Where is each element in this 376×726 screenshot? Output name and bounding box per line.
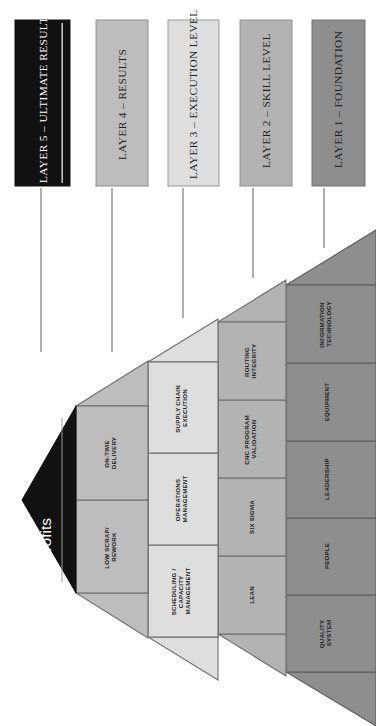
legend-item-layer-4[interactable]: LAYER 4 – RESULTS <box>96 20 148 186</box>
cell-box <box>286 518 376 595</box>
cell-box <box>286 441 376 518</box>
cell-label: PEOPLE <box>323 543 330 569</box>
layer-3-cells: SCHEDULING / CAPACITY MANAGEMENT OPERATI… <box>148 362 218 637</box>
legend-item-layer-5[interactable]: LAYER 5 – ULTIMATE RESULTS <box>15 10 70 186</box>
legend-item-layer-3[interactable]: LAYER 3 – EXECUTION LEVEL <box>168 9 219 186</box>
layer-1-cell-3[interactable]: EQUIPMENT <box>286 363 376 441</box>
cell-label: CNC PROGRAM VALIDATION <box>243 413 257 464</box>
legend-accent-line-layer-5 <box>62 23 63 183</box>
layer-4-cell-1[interactable]: ON-TIME DELIVERY <box>76 406 148 500</box>
legend-label-layer-5: LAYER 5 – ULTIMATE RESULTS <box>37 10 49 183</box>
layer-4-cell-0[interactable]: LOW SCRAP/ REWORK <box>76 500 148 593</box>
legend-item-layer-1[interactable]: LAYER 1 – FOUNDATION <box>312 20 365 186</box>
pyramid-layer-3[interactable]: SCHEDULING / CAPACITY MANAGEMENT OPERATI… <box>148 319 218 680</box>
pyramid-diagram: LAYER 5 – ULTIMATE RESULTS LAYER 4 – RES… <box>0 0 376 726</box>
layer-2-cell-1[interactable]: SIX SIGMA <box>218 478 286 556</box>
layer-2-cell-0[interactable]: LEAN <box>218 556 286 634</box>
pyramid-apex-layer-5[interactable]: Profits <box>22 406 76 593</box>
layer-1-cell-1[interactable]: PEOPLE <box>286 518 376 595</box>
cell-label: QUALITY SYSTEM <box>318 618 332 648</box>
apex-label: Profits <box>37 518 54 562</box>
cell-label: SCHEDULING / CAPACITY MANAGEMENT <box>170 567 192 616</box>
legend-label-layer-2: LAYER 2 – SKILL LEVEL <box>260 33 272 168</box>
cell-label: ON-TIME DELIVERY <box>103 437 117 469</box>
layer-3-cell-1[interactable]: OPERATIONS MANAGEMENT <box>148 453 218 545</box>
cell-label: ROUTING INTEGRITY <box>243 344 257 379</box>
layer-3-cell-2[interactable]: SUPPLY CHAIN EXECUTION <box>148 362 218 453</box>
cell-label: LEADERSHIP <box>323 458 330 500</box>
layer-3-cell-0[interactable]: SCHEDULING / CAPACITY MANAGEMENT <box>148 545 218 637</box>
legend-label-layer-3: LAYER 3 – EXECUTION LEVEL <box>187 9 199 179</box>
cell-label: SIX SIGMA <box>248 500 255 534</box>
layer-4-cells: LOW SCRAP/ REWORK ON-TIME DELIVERY <box>76 406 148 593</box>
legend: LAYER 5 – ULTIMATE RESULTS LAYER 4 – RES… <box>15 9 365 186</box>
legend-label-layer-4: LAYER 4 – RESULTS <box>116 49 128 160</box>
cell-box <box>286 363 376 441</box>
layer-2-cells: LEAN SIX SIGMA CNC PROGRAM VALIDATION <box>218 322 286 634</box>
diagram-canvas: LAYER 5 – ULTIMATE RESULTS LAYER 4 – RES… <box>0 0 376 726</box>
layer-2-cell-3[interactable]: ROUTING INTEGRITY <box>218 322 286 400</box>
apex-triangle <box>22 406 76 593</box>
cell-label: INFORMATION TECHNOLOGY <box>318 300 332 347</box>
layer-1-cell-2[interactable]: LEADERSHIP <box>286 441 376 518</box>
cell-label: EQUIPMENT <box>323 383 330 422</box>
pyramid-layer-1[interactable]: QUALITY SYSTEM PEOPLE LEADERSHIP <box>286 230 376 726</box>
layer-1-cells: QUALITY SYSTEM PEOPLE LEADERSHIP <box>286 285 376 672</box>
legend-item-layer-2[interactable]: LAYER 2 – SKILL LEVEL <box>240 20 292 186</box>
pyramid-layer-2[interactable]: LEAN SIX SIGMA CNC PROGRAM VALIDATION <box>218 280 286 676</box>
cell-label: LEAN <box>248 586 255 604</box>
pyramid-layer-4[interactable]: LOW SCRAP/ REWORK ON-TIME DELIVERY <box>76 361 148 638</box>
layer-1-cell-4[interactable]: INFORMATION TECHNOLOGY <box>286 285 376 363</box>
legend-label-layer-1: LAYER 1 – FOUNDATION <box>332 31 344 168</box>
cell-label: SUPPLY CHAIN EXECUTION <box>174 383 188 433</box>
layer-2-cell-2[interactable]: CNC PROGRAM VALIDATION <box>218 400 286 478</box>
cell-label: OPERATIONS MANAGEMENT <box>174 476 188 523</box>
layer-1-cell-0[interactable]: QUALITY SYSTEM <box>286 595 376 672</box>
